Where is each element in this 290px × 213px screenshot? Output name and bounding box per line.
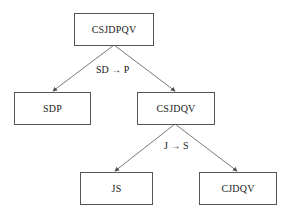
node-cjdqv: CJDQV: [199, 172, 277, 205]
node-csjdqv: CSJDQV: [137, 92, 215, 125]
node-sdp: SDP: [14, 92, 91, 125]
node-root: CSJDPQV: [74, 13, 154, 46]
edge-label-sd-p: SD → P: [95, 64, 130, 75]
node-js: JS: [80, 172, 153, 205]
edge-label-j-s: J → S: [163, 140, 189, 151]
